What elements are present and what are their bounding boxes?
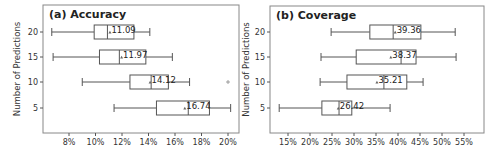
x-tick-label: 20% xyxy=(301,138,319,147)
y-tick-label: 5 xyxy=(33,104,38,113)
mean-label: 26.42 xyxy=(340,101,364,111)
mean-label: 16.74 xyxy=(186,101,210,111)
x-tick-label: 8% xyxy=(63,138,76,147)
x-tick-label: 18% xyxy=(193,138,211,147)
x-tick-label: 55% xyxy=(455,138,473,147)
box-10-predictions: 35.21 xyxy=(320,75,423,89)
x-tick-label: 45% xyxy=(411,138,429,147)
x-tick-label: 16% xyxy=(166,138,184,147)
y-tick-label: 20 xyxy=(28,28,38,37)
box-20-predictions: 11.09 xyxy=(52,25,150,39)
chart-title: (b) Coverage xyxy=(276,9,356,22)
x-tick-label: 50% xyxy=(433,138,451,147)
y-tick-label: 15 xyxy=(255,53,265,62)
mean-label: 11.09 xyxy=(111,25,135,35)
box-20-predictions: 39.36 xyxy=(331,25,455,39)
box-15-predictions: 11.97 xyxy=(53,50,172,64)
y-tick-label: 15 xyxy=(28,53,38,62)
x-tick-label: 10% xyxy=(87,138,105,147)
x-tick-label: 14% xyxy=(140,138,158,147)
mean-label: 38.37 xyxy=(392,50,416,60)
x-tick-label: 12% xyxy=(113,138,131,147)
box-15-predictions: 38.37 xyxy=(321,50,456,64)
box-10-predictions: 14.12 xyxy=(82,75,230,89)
box-5-predictions: 26.42 xyxy=(279,101,390,115)
box-5-predictions: 16.74 xyxy=(114,101,231,115)
mean-label: 39.36 xyxy=(397,25,421,35)
y-axis-label: Number of Predictions xyxy=(241,22,251,117)
y-tick-label: 10 xyxy=(28,78,38,87)
y-tick-label: 10 xyxy=(255,78,265,87)
y-tick-label: 20 xyxy=(255,28,265,37)
x-tick-label: 40% xyxy=(389,138,407,147)
x-tick-label: 25% xyxy=(323,138,341,147)
x-tick-label: 35% xyxy=(367,138,385,147)
mean-label: 35.21 xyxy=(378,75,402,85)
box-plot-figure: (a) AccuracyNumber of Predictions2015105… xyxy=(0,0,492,154)
chart-panel-coverage: (b) CoverageNumber of Predictions2015105… xyxy=(241,6,484,147)
x-tick-label: 15% xyxy=(279,138,297,147)
y-tick-label: 5 xyxy=(260,104,265,113)
x-tick-label: 30% xyxy=(345,138,363,147)
mean-label: 14.12 xyxy=(152,75,176,85)
chart-title: (a) Accuracy xyxy=(49,8,126,21)
mean-label: 11.97 xyxy=(123,50,147,60)
y-axis-label: Number of Predictions xyxy=(12,21,22,116)
chart-panel-accuracy: (a) AccuracyNumber of Predictions2015105… xyxy=(12,5,239,147)
x-tick-label: 20% xyxy=(219,138,237,147)
